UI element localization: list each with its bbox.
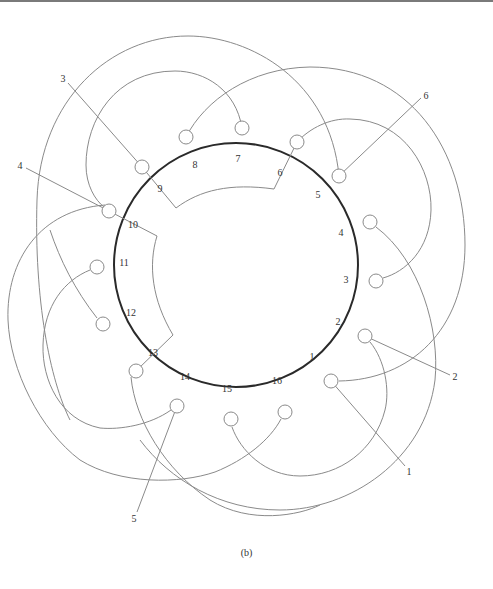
terminal xyxy=(96,317,110,331)
lead-number-label: 4 xyxy=(18,160,23,171)
figure-caption: (b) xyxy=(0,547,493,558)
terminal xyxy=(358,329,372,343)
coil-arc-lower-cross xyxy=(131,377,320,516)
lead-wires xyxy=(26,83,450,512)
lead-number-label: 6 xyxy=(424,90,429,101)
slot-number-label: 12 xyxy=(126,307,136,318)
slot-number-label: 3 xyxy=(344,274,349,285)
slot-number-label: 7 xyxy=(236,153,241,164)
slot-number-label: 13 xyxy=(148,347,158,358)
terminal xyxy=(102,204,116,218)
slot-number-label: 2 xyxy=(336,316,341,327)
terminal xyxy=(363,215,377,229)
slot-number-label: 1 xyxy=(310,351,315,362)
terminal xyxy=(179,130,193,144)
lead-wire-4 xyxy=(26,168,109,211)
terminal xyxy=(170,399,184,413)
lead-number-label: 1 xyxy=(407,466,412,477)
terminal xyxy=(332,169,346,183)
slot-number-label: 5 xyxy=(316,189,321,200)
terminal xyxy=(235,121,249,135)
lead-number-label: 5 xyxy=(132,513,137,524)
terminal xyxy=(135,160,149,174)
coil-arc-outer-bottom xyxy=(8,205,281,480)
jumper-9-6 xyxy=(142,142,297,208)
coil-arc-outer-right xyxy=(140,227,436,510)
coil-arc-outer-top-left xyxy=(37,36,339,420)
slot-number-label: 9 xyxy=(158,183,163,194)
coil-arcs xyxy=(8,36,465,516)
terminal xyxy=(369,274,383,288)
slot-number-label: 4 xyxy=(339,227,344,238)
coil-arc-left-cross xyxy=(50,230,97,318)
slot-number-label: 14 xyxy=(180,371,190,382)
lead-number-label: 2 xyxy=(453,371,458,382)
terminal xyxy=(224,412,238,426)
slot-number-label: 15 xyxy=(222,383,232,394)
terminal xyxy=(290,135,304,149)
terminal xyxy=(129,364,143,378)
slot-number-label: 8 xyxy=(193,159,198,170)
terminals xyxy=(90,121,383,426)
terminal xyxy=(324,374,338,388)
slot-number-label: 11 xyxy=(119,257,129,268)
coil-arc-inner-top-left xyxy=(86,71,242,207)
lead-wire-6 xyxy=(339,98,421,176)
coil-arc-outer-top-right xyxy=(186,67,465,381)
lead-number-label: 3 xyxy=(61,73,66,84)
terminal xyxy=(90,260,104,274)
winding-diagram: 12345678910111213141516 123456 xyxy=(0,0,493,589)
lead-wire-2 xyxy=(365,336,450,375)
terminal xyxy=(278,405,292,419)
lead-wire-1 xyxy=(331,381,405,466)
lead-wire-3 xyxy=(68,83,142,167)
slot-number-label: 6 xyxy=(278,167,283,178)
slot-labels: 12345678910111213141516 xyxy=(119,153,348,394)
slot-number-label: 10 xyxy=(128,219,138,230)
slot-number-label: 16 xyxy=(272,375,282,386)
